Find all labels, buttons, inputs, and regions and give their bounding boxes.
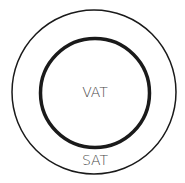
vat-label: VAT (82, 84, 108, 100)
sat-label: SAT (82, 152, 109, 168)
fat-distribution-diagram: VAT SAT (0, 0, 185, 183)
